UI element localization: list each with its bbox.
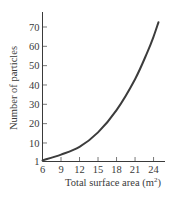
x-tick-label: 24 [148,164,159,175]
y-tick-label: 70 [29,22,40,33]
y-tick-label: 30 [29,99,40,110]
y-axis-title: Number of particles [8,46,19,130]
x-tick-label: 6 [40,164,45,175]
data-curve [43,22,159,160]
x-tick-label: 21 [130,164,141,175]
y-tick-label: 50 [29,60,40,71]
y-tick-label: 40 [29,80,40,91]
y-axis-ticks: 110203040506070 [29,22,47,168]
chart: 110203040506070 691215182124 Number of p… [0,0,174,197]
y-tick-label: 10 [29,138,40,149]
x-tick-label: 15 [93,164,104,175]
x-tick-label: 12 [74,164,85,175]
x-axis-title-main: Total surface area (m [65,177,154,189]
y-tick-label: 20 [29,118,40,129]
x-axis-ticks: 691215182124 [40,157,160,175]
x-tick-label: 9 [58,164,63,175]
x-axis-title: Total surface area (m2) [65,176,161,189]
x-tick-label: 18 [111,164,122,175]
x-axis-title-close: ) [157,177,161,189]
y-tick-label: 60 [29,41,40,52]
y-tick-label: 1 [34,156,39,167]
